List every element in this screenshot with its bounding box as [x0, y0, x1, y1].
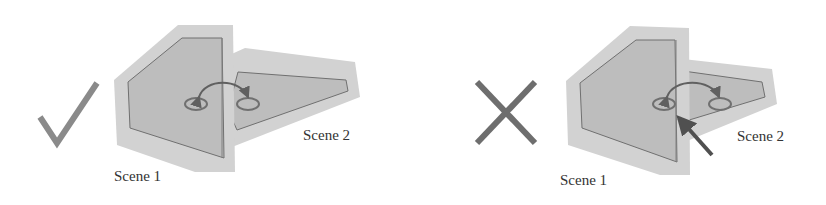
scene-1-label: Scene 1: [114, 168, 161, 185]
scene-1-label: Scene 1: [560, 172, 607, 189]
check-icon: [40, 83, 97, 143]
cross-icon: [477, 82, 535, 143]
scene-2-label: Scene 2: [303, 127, 350, 144]
scene-1-region: [114, 25, 235, 172]
panel-correct: [40, 25, 360, 172]
scene-2-label: Scene 2: [737, 128, 784, 145]
panel-incorrect: [477, 26, 777, 175]
